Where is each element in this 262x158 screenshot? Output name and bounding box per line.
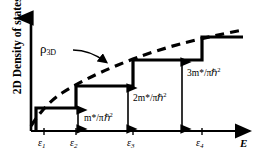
x-tick-label-eps3: ε3 — [127, 138, 134, 150]
x-tick-label-eps1: ε1 — [38, 138, 45, 150]
x-axis-label: E — [240, 138, 247, 149]
y-axis-label: 2D Density of states — [12, 0, 24, 96]
staircase-curve — [36, 37, 243, 131]
rho-label-pointer — [73, 50, 106, 62]
plot-canvas — [0, 0, 262, 158]
density-of-states-figure: 2D Density of states ρ3D m*/πℏ2 2m*/πℏ2 … — [0, 0, 262, 158]
step-height-label-1: m*/πℏ2 — [84, 112, 113, 123]
x-tick-label-eps4: ε4 — [196, 138, 203, 150]
step-height-label-3: 3m*/πℏ2 — [187, 67, 221, 78]
step-height-label-2: 2m*/πℏ2 — [133, 92, 167, 103]
rho-3d-label: ρ3D — [40, 42, 56, 57]
rho-subscript: 3D — [47, 48, 56, 57]
x-tick-label-eps2: ε2 — [70, 138, 77, 150]
